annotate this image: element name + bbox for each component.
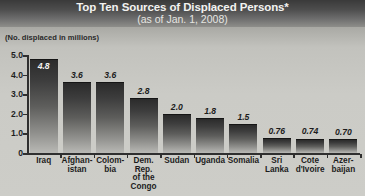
- chart-subtitle: (as of Jan. 1, 2008): [0, 13, 365, 26]
- y-axis-tick-label: 2.0: [1, 110, 23, 118]
- y-axis-tick: [23, 94, 27, 96]
- bar-value-label: 4.8: [24, 62, 64, 71]
- y-axis-tick-label: 4.0: [1, 71, 23, 79]
- y-axis-labels: 5.04.03.02.01.00: [0, 55, 23, 154]
- x-axis-labels: IraqAfghan- istanColom- biaDem. Rep. of …: [27, 157, 360, 196]
- bar: [63, 82, 91, 153]
- x-axis-category-label: Afghan- istan: [60, 157, 93, 174]
- bar: [329, 139, 357, 153]
- x-axis-category-label: Somalia: [227, 157, 260, 166]
- units-note: (No. displaced in millions): [5, 33, 99, 42]
- y-axis-tick: [23, 55, 27, 57]
- x-axis-category-label: Iraq: [27, 157, 60, 166]
- y-axis-tick-label: 5.0: [1, 51, 23, 59]
- bar-value-label: 1.5: [223, 113, 263, 122]
- x-axis-category-label: Azer- baijan: [327, 157, 360, 174]
- x-axis-category-label: Cote d'Ivoire: [293, 157, 326, 174]
- bar-value-label: 3.6: [90, 71, 130, 80]
- chart-header-band: Top Ten Sources of Displaced Persons* (a…: [0, 0, 365, 27]
- y-axis-tick-label: 1.0: [1, 129, 23, 137]
- bar: [30, 59, 58, 153]
- x-axis-category-label: Dem. Rep. of the Congo: [127, 157, 160, 191]
- x-axis-category-label: Uganda: [194, 157, 227, 166]
- bar: [96, 82, 124, 153]
- chart-container: Top Ten Sources of Displaced Persons* (a…: [0, 0, 365, 196]
- x-axis-category-label: Colom- bia: [94, 157, 127, 174]
- bar: [130, 98, 158, 153]
- bar-value-label: 0.70: [323, 128, 363, 137]
- bar: [163, 114, 191, 153]
- x-axis-category-label: Sri Lanka: [260, 157, 293, 174]
- y-axis-tick: [23, 75, 27, 77]
- plot-area: 4.83.63.62.82.01.81.50.760.740.70: [27, 55, 360, 153]
- bar: [196, 118, 224, 153]
- x-axis-tick: [360, 154, 362, 158]
- y-axis-tick: [23, 114, 27, 116]
- bar: [229, 124, 257, 153]
- bar-value-label: 2.8: [124, 87, 164, 96]
- y-axis-tick-label: 3.0: [1, 90, 23, 98]
- x-axis-category-label: Sudan: [160, 157, 193, 166]
- bar: [263, 138, 291, 153]
- y-axis-tick: [23, 153, 27, 155]
- bar: [296, 139, 324, 154]
- y-axis-tick-label: 0: [1, 149, 23, 157]
- y-axis-tick: [23, 133, 27, 135]
